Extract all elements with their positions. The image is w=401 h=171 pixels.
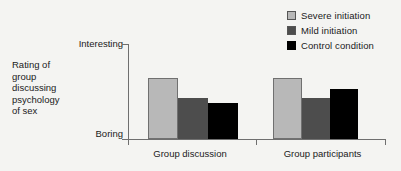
legend-swatch-icon-severe — [287, 11, 296, 20]
x-axis-category-label-2: Group participants — [260, 148, 385, 159]
legend-label-control: Control condition — [301, 40, 374, 51]
y-axis-tick-top — [122, 44, 128, 45]
bar-group-discussion-control — [208, 103, 238, 139]
chart-legend: Severe initiation Mild initiation Contro… — [287, 9, 399, 54]
y-axis-title-line-3: discussing — [12, 82, 92, 94]
y-axis-title: Rating of group discussing psychology of… — [12, 59, 92, 117]
x-axis-tick-end — [385, 139, 386, 145]
bar-group-discussion-severe — [148, 78, 178, 139]
y-axis-title-line-2: group — [12, 71, 92, 83]
bar-group-participants-mild — [302, 98, 330, 139]
x-axis-tick-start — [128, 139, 129, 145]
legend-label-severe: Severe initiation — [301, 10, 370, 21]
bar-chart: Severe initiation Mild initiation Contro… — [0, 0, 401, 171]
y-axis-top-label: Interesting — [79, 38, 123, 49]
legend-swatch-icon-mild — [287, 26, 296, 35]
x-axis-line — [128, 139, 386, 140]
y-axis-title-line-5: of sex — [12, 105, 92, 117]
legend-item-control-condition: Control condition — [287, 39, 399, 52]
legend-label-mild: Mild initiation — [301, 25, 357, 36]
y-axis-line — [128, 44, 129, 139]
x-axis-tick-separator — [256, 139, 257, 145]
y-axis-bottom-label: Boring — [96, 128, 123, 139]
y-axis-title-line-1: Rating of — [12, 59, 92, 71]
bar-group-participants-control — [330, 89, 358, 139]
x-axis-category-label-1: Group discussion — [130, 148, 250, 159]
legend-item-severe-initiation: Severe initiation — [287, 9, 399, 22]
legend-swatch-icon-control — [287, 41, 296, 50]
legend-item-mild-initiation: Mild initiation — [287, 24, 399, 37]
bar-group-participants-severe — [273, 78, 302, 139]
y-axis-title-line-4: psychology — [12, 94, 92, 106]
bar-group-discussion-mild — [178, 98, 208, 139]
